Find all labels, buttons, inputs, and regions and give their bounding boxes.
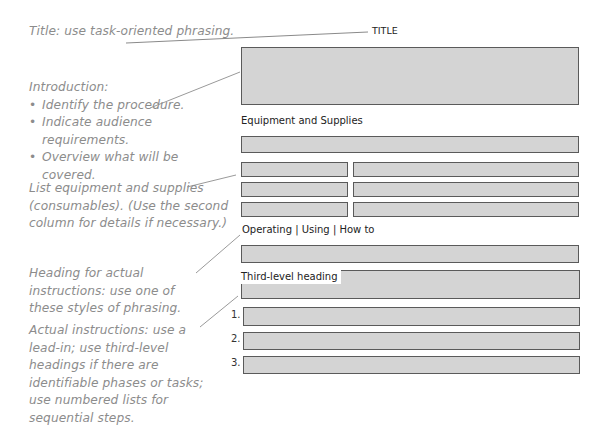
step-number: 1.	[231, 309, 241, 320]
title-label: TITLE	[372, 25, 398, 36]
equipment-detail-box	[353, 182, 579, 197]
step-box	[243, 356, 580, 374]
equipment-detail-box	[353, 202, 579, 217]
step-number: 2.	[231, 333, 241, 344]
instructions-leadin-box	[241, 245, 579, 263]
equipment-annotation: List equipment and supplies (consumables…	[29, 180, 229, 233]
intro-annotation-heading: Introduction:	[29, 79, 229, 97]
intro-bullet-list: Identify the procedure. Indicate audienc…	[29, 97, 229, 185]
intro-bullet: Overview what will be covered.	[29, 149, 192, 184]
heading-annotation: Heading for actual instructions: use one…	[29, 265, 204, 318]
step-box	[243, 332, 580, 350]
equipment-item-box	[241, 202, 348, 217]
equipment-detail-box	[353, 162, 579, 177]
equipment-heading: Equipment and Supplies	[241, 115, 363, 126]
instructions-heading: Operating | Using | How to	[242, 224, 374, 235]
equipment-item-box	[241, 182, 348, 197]
title-annotation: Title: use task-oriented phrasing.	[29, 23, 239, 41]
intro-bullet: Indicate audience requirements.	[29, 114, 182, 149]
equipment-intro-box	[241, 136, 579, 153]
intro-annotation: Introduction: Identify the procedure. In…	[29, 79, 229, 184]
step-box	[243, 307, 580, 326]
third-level-heading: Third-level heading	[241, 270, 341, 284]
instructions-annotation: Actual instructions: use a lead-in; use …	[29, 322, 207, 427]
intro-bullet: Identify the procedure.	[29, 97, 229, 115]
step-number: 3.	[231, 357, 241, 368]
title-placeholder-box	[241, 47, 579, 105]
equipment-item-box	[241, 162, 348, 177]
